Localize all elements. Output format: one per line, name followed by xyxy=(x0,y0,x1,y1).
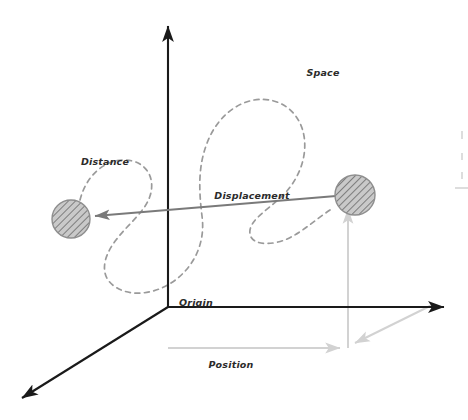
label-space: Space xyxy=(306,67,339,78)
label-origin: Origin xyxy=(179,297,213,308)
label-position: Position xyxy=(208,359,253,370)
position-projection-group xyxy=(168,209,432,348)
label-distance: Distance xyxy=(81,156,130,167)
edge-fragment xyxy=(455,131,468,188)
end-sphere xyxy=(335,175,375,215)
distance-trajectory xyxy=(80,99,330,293)
z-axis xyxy=(22,307,168,398)
physics-diagram-figure: Space Distance Displacement Origin Posit… xyxy=(0,0,468,420)
label-displacement: Displacement xyxy=(214,190,290,201)
position-vector-depth xyxy=(355,305,432,343)
start-sphere xyxy=(52,200,90,238)
diagram-canvas: Space Distance Displacement Origin Posit… xyxy=(0,0,468,420)
